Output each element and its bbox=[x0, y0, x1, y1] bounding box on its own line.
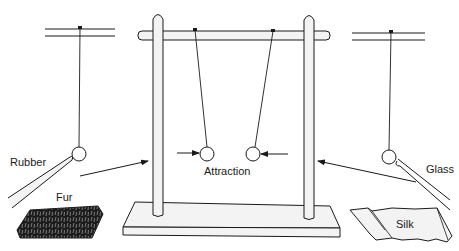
fur-cloth bbox=[17, 206, 103, 238]
pith-ball-left bbox=[200, 147, 214, 161]
diagram-canvas: Rubber Fur Attraction Glass Silk bbox=[0, 0, 459, 251]
right-string bbox=[389, 32, 391, 150]
pendulum-left bbox=[193, 28, 214, 161]
stand-left-post bbox=[153, 15, 163, 217]
label-rubber: Rubber bbox=[10, 157, 46, 168]
pendulum-right bbox=[246, 29, 275, 161]
label-silk: Silk bbox=[396, 219, 414, 230]
transfer-arrow-left-icon bbox=[80, 161, 148, 176]
transfer-arrow-right-icon bbox=[318, 161, 416, 182]
left-suspension bbox=[45, 26, 115, 161]
label-glass: Glass bbox=[426, 164, 454, 175]
diagram-svg bbox=[0, 0, 459, 251]
left-string bbox=[79, 28, 80, 147]
right-suspended-ball bbox=[382, 150, 396, 164]
label-attraction: Attraction bbox=[204, 166, 250, 177]
stand-crossbar bbox=[138, 31, 330, 40]
stand-right-post bbox=[304, 16, 314, 220]
left-suspended-ball bbox=[72, 147, 86, 161]
label-fur: Fur bbox=[56, 192, 73, 203]
pith-ball-right bbox=[246, 147, 260, 161]
right-suspension bbox=[352, 30, 425, 164]
